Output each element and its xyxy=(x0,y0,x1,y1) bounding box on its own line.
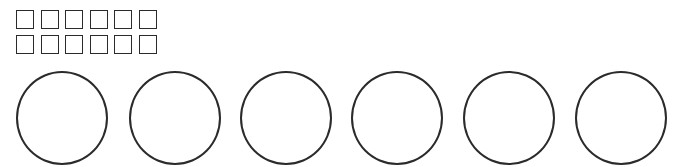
empty-square-box xyxy=(16,10,34,29)
empty-square-box xyxy=(114,10,132,29)
empty-square-box xyxy=(16,35,34,54)
empty-circle xyxy=(351,71,443,165)
empty-square-box xyxy=(139,10,157,29)
empty-circle xyxy=(463,71,555,165)
empty-circle xyxy=(240,71,332,165)
empty-square-box xyxy=(65,10,83,29)
empty-square-box xyxy=(114,35,132,54)
empty-square-box xyxy=(139,35,157,54)
empty-square-box xyxy=(90,35,108,54)
empty-circle xyxy=(16,71,108,165)
empty-square-box xyxy=(65,35,83,54)
empty-square-box xyxy=(90,10,108,29)
empty-circle xyxy=(575,71,667,165)
empty-square-box xyxy=(41,10,59,29)
empty-square-box xyxy=(41,35,59,54)
empty-circle xyxy=(129,71,221,165)
